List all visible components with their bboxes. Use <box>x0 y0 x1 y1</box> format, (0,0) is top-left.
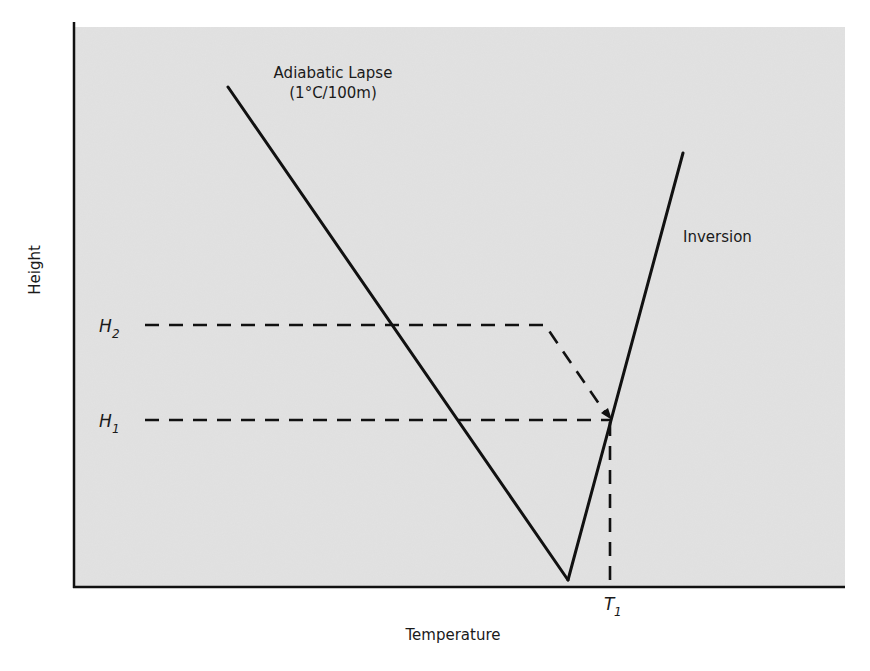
h2-subscript: 2 <box>112 327 120 341</box>
h2-label: H <box>99 316 112 336</box>
inversion-label: Inversion <box>683 228 752 246</box>
plot-area-texture <box>74 27 845 587</box>
x-axis-label: Temperature <box>404 626 500 644</box>
adiabatic-label-line1: Adiabatic Lapse <box>274 64 393 82</box>
h1-label: H <box>99 411 112 431</box>
h1-subscript: 1 <box>112 422 120 436</box>
t1-subscript: 1 <box>614 605 622 619</box>
y-axis-label: Height <box>26 245 44 295</box>
temperature-height-diagram: Adiabatic Lapse (1°C/100m) Inversion H 2… <box>0 0 870 671</box>
adiabatic-label-line2: (1°C/100m) <box>289 84 377 102</box>
